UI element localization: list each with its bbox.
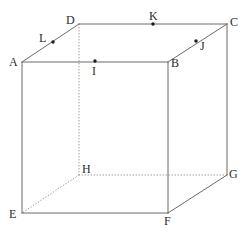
point-label-l: L: [39, 32, 46, 44]
point-label-k: K: [149, 10, 158, 22]
point-label-i: I: [92, 65, 96, 77]
cube-edge-he: [22, 175, 79, 213]
vertex-label-d: D: [66, 14, 75, 26]
vertex-label-a: A: [9, 56, 18, 68]
vertex-label-c: C: [230, 16, 238, 28]
vertex-label-g: G: [229, 168, 238, 180]
point-label-j: J: [200, 40, 205, 52]
hidden-edges-group: [22, 24, 227, 213]
marked-point-l: [51, 40, 54, 43]
vertex-label-f: F: [164, 215, 171, 227]
solid-edges-group: [22, 24, 227, 213]
cube-figure: ABCDEFGHIJKL: [0, 0, 244, 231]
marked-point-i: [93, 59, 96, 62]
vertex-label-b: B: [171, 57, 179, 69]
vertex-label-e: E: [9, 208, 16, 220]
marked-point-j: [194, 39, 197, 42]
cube-edge-da: [22, 24, 79, 62]
cube-edge-fg: [168, 175, 227, 213]
vertex-label-h: H: [82, 163, 91, 175]
cube-svg: [0, 0, 244, 231]
